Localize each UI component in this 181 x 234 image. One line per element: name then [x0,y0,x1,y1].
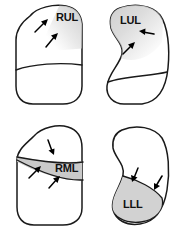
panel-lul: LUL [96,2,178,112]
lobe-label-rul: RUL [56,11,78,23]
panel-rml: RML [8,120,92,232]
lobe-label-rml: RML [55,162,79,174]
lung-lobes-figure: RUL [0,0,181,234]
panel-lll: LLL [96,120,178,232]
lobe-label-lll: LLL [123,198,143,210]
panel-rul: RUL [8,2,92,112]
lobe-label-lul: LUL [120,14,141,26]
